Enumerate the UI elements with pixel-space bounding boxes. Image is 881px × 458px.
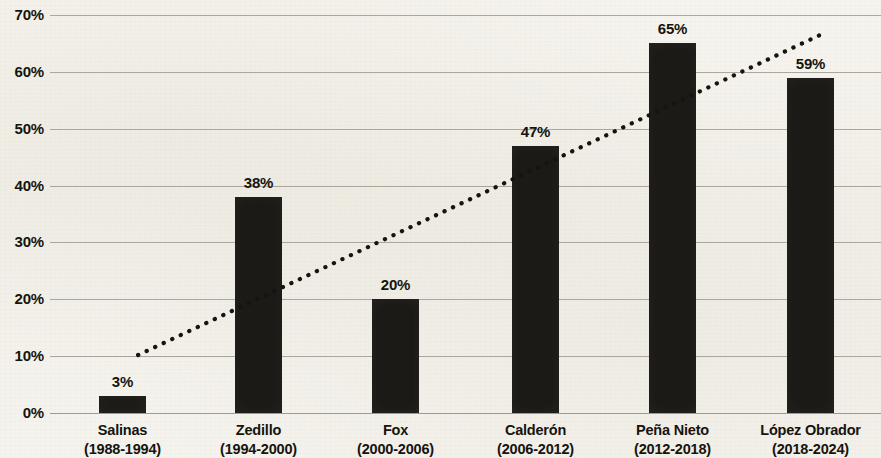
gridline-60	[50, 72, 881, 73]
x-category-label: Fox(2000-2006)	[324, 421, 468, 458]
gridline-10	[50, 356, 881, 357]
gridline-30	[50, 242, 881, 243]
x-category-label: Peña Nieto(2012-2018)	[601, 421, 745, 458]
x-category-name: López Obrador	[739, 421, 881, 440]
bar	[787, 78, 834, 413]
y-tick-label: 0%	[0, 405, 44, 420]
bar-value-label: 59%	[766, 56, 856, 71]
x-category-name: Zedillo	[187, 421, 331, 440]
bar	[512, 146, 559, 413]
bar	[235, 197, 282, 413]
y-tick-label: 40%	[0, 178, 44, 193]
gridline-20	[50, 299, 881, 300]
bar-chart: 70%60%50%40%30%20%10%0% 3%38%20%47%65%59…	[0, 0, 881, 458]
x-category-years: (2018-2024)	[739, 440, 881, 458]
x-category-years: (2012-2018)	[601, 440, 745, 458]
bar-value-label: 20%	[351, 277, 441, 292]
bar	[99, 396, 146, 413]
y-tick-label: 60%	[0, 64, 44, 79]
x-category-years: (1994-2000)	[187, 440, 331, 458]
bar	[649, 43, 696, 413]
gridline-50	[50, 129, 881, 130]
gridline-70	[50, 15, 881, 16]
bar-value-label: 38%	[214, 175, 304, 190]
y-tick-label: 70%	[0, 7, 44, 22]
y-tick-label: 50%	[0, 121, 44, 136]
x-category-years: (2000-2006)	[324, 440, 468, 458]
x-category-label: Zedillo(1994-2000)	[187, 421, 331, 458]
x-category-years: (2006-2012)	[464, 440, 608, 458]
bar-value-label: 3%	[78, 374, 168, 389]
bar-value-label: 47%	[491, 124, 581, 139]
x-category-label: Salinas(1988-1994)	[51, 421, 195, 458]
x-category-label: López Obrador(2018-2024)	[739, 421, 881, 458]
gridline-0	[50, 413, 881, 414]
x-category-label: Calderón(2006-2012)	[464, 421, 608, 458]
x-category-name: Peña Nieto	[601, 421, 745, 440]
y-tick-label: 10%	[0, 348, 44, 363]
x-category-years: (1988-1994)	[51, 440, 195, 458]
gridline-40	[50, 186, 881, 187]
x-category-name: Fox	[324, 421, 468, 440]
y-tick-label: 30%	[0, 234, 44, 249]
bar	[372, 299, 419, 413]
y-tick-label: 20%	[0, 291, 44, 306]
bar-value-label: 65%	[628, 21, 718, 36]
x-category-name: Calderón	[464, 421, 608, 440]
x-category-name: Salinas	[51, 421, 195, 440]
